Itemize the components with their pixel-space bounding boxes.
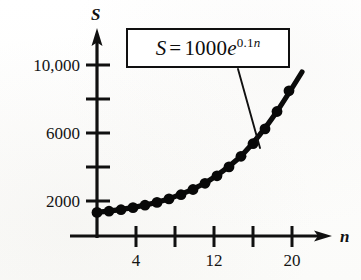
x-tick-label-12: 12 — [194, 252, 234, 269]
data-point — [152, 197, 163, 208]
exponential-curve — [97, 72, 302, 212]
data-point — [188, 184, 199, 195]
x-tick-label-4: 4 — [116, 252, 156, 269]
data-point — [176, 189, 187, 200]
y-tick-label-2000: 2000 — [6, 193, 80, 210]
formula-callout-box: S=1000e0.1n — [126, 28, 290, 68]
data-point — [116, 204, 127, 215]
data-point — [128, 202, 139, 213]
data-point — [164, 194, 175, 205]
x-axis-label: n — [340, 228, 349, 245]
data-point — [92, 207, 103, 218]
y-axis-label: S — [91, 6, 100, 23]
x-tick-label-20: 20 — [272, 252, 312, 269]
exponential-growth-figure: S=1000e0.1n 10,000 6000 2000 4 12 20 S n — [0, 0, 361, 280]
formula-base: e — [227, 36, 237, 60]
data-point — [284, 85, 295, 96]
y-tick-label-10000: 10,000 — [6, 57, 80, 74]
data-point — [140, 200, 151, 211]
data-point — [224, 162, 235, 173]
formula-lhs: S — [156, 36, 167, 60]
callout-leader-line — [238, 69, 260, 148]
data-point — [272, 106, 283, 117]
formula-coefficient: 1000 — [184, 36, 227, 60]
data-point — [260, 123, 271, 134]
formula-exponent-coefficient: 0.1 — [237, 35, 254, 50]
formula-exponent-variable: n — [254, 35, 261, 50]
data-point — [200, 178, 211, 189]
formula-exponent: 0.1n — [237, 35, 261, 50]
data-point — [236, 151, 247, 162]
formula-text: S=1000e0.1n — [156, 35, 261, 61]
data-point — [212, 170, 223, 181]
data-point — [104, 206, 115, 217]
y-tick-label-6000: 6000 — [6, 125, 80, 142]
data-points-group — [92, 85, 295, 217]
formula-equals: = — [169, 36, 181, 60]
